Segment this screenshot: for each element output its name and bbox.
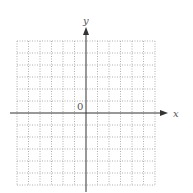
x-axis-arrow-icon	[160, 110, 168, 116]
x-axis-label: x	[173, 108, 179, 119]
y-axis-arrow-icon	[83, 27, 89, 35]
origin-label: 0	[77, 101, 83, 112]
coordinate-plane: x y 0	[0, 0, 193, 193]
y-axis-label: y	[82, 15, 89, 26]
